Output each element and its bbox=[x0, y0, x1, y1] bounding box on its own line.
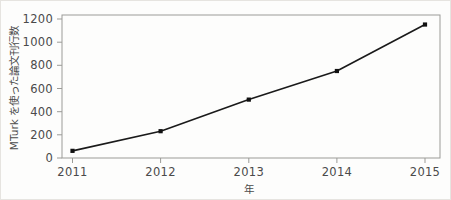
data-point-2013 bbox=[247, 98, 251, 102]
y-axis-ticks bbox=[57, 19, 62, 158]
y-tick-label: 1000 bbox=[23, 35, 53, 49]
x-tick-label: 2014 bbox=[322, 165, 352, 179]
y-tick-label: 1200 bbox=[23, 12, 53, 26]
x-axis-title: 年 bbox=[244, 183, 254, 195]
x-tick-label: 2012 bbox=[145, 165, 175, 179]
data-series bbox=[70, 22, 427, 153]
plot-frame bbox=[62, 15, 440, 158]
data-point-2012 bbox=[159, 129, 163, 133]
x-tick-labels: 2011 2012 2013 2014 2015 bbox=[57, 165, 440, 179]
x-axis-ticks bbox=[73, 158, 426, 163]
x-tick-label: 2011 bbox=[57, 165, 87, 179]
y-tick-label: 0 bbox=[45, 151, 53, 165]
y-tick-label: 600 bbox=[30, 82, 53, 96]
data-point-2014 bbox=[335, 69, 339, 73]
chart-figure: 0 200 400 600 800 1000 1200 2011 2012 20… bbox=[0, 0, 451, 200]
x-tick-label: 2015 bbox=[410, 165, 440, 179]
data-point-2015 bbox=[423, 22, 427, 26]
series-markers bbox=[70, 22, 427, 153]
y-axis-title: MTurk を使った論文刊行数 bbox=[8, 25, 20, 150]
line-chart: 0 200 400 600 800 1000 1200 2011 2012 20… bbox=[0, 0, 451, 200]
y-tick-label: 400 bbox=[30, 105, 53, 119]
series-line bbox=[73, 25, 426, 151]
y-tick-labels: 0 200 400 600 800 1000 1200 bbox=[23, 12, 53, 165]
y-tick-label: 200 bbox=[30, 128, 53, 142]
x-tick-label: 2013 bbox=[234, 165, 264, 179]
data-point-2011 bbox=[70, 149, 74, 153]
y-tick-label: 800 bbox=[30, 58, 53, 72]
